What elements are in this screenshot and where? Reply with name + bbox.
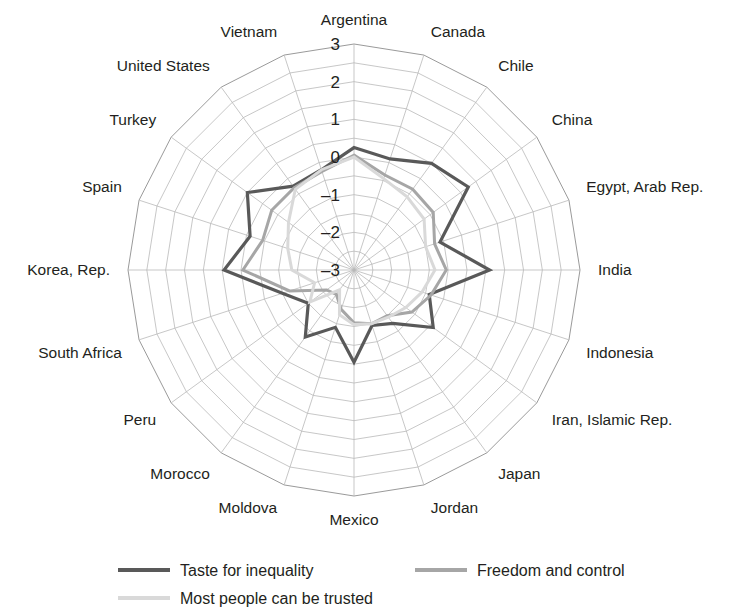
axis-label-china: China <box>552 111 593 128</box>
radial-tick-label: –2 <box>321 223 340 242</box>
axis-label-jordan: Jordan <box>431 499 478 516</box>
axis-label-mexico: Mexico <box>329 511 378 528</box>
radar-gridlines <box>128 44 580 496</box>
grid-spoke <box>354 270 537 403</box>
axis-label-argentina: Argentina <box>321 11 388 28</box>
radial-tick-label: –3 <box>321 261 340 280</box>
radial-tick-label: 1 <box>331 110 340 129</box>
axis-label-india: India <box>598 261 632 278</box>
legend-label: Most people can be trusted <box>180 590 373 607</box>
radial-tick-label: 2 <box>331 73 340 92</box>
chart-legend: Taste for inequalityFreedom and controlM… <box>118 562 625 607</box>
axis-label-japan: Japan <box>498 465 540 482</box>
grid-spoke <box>221 270 354 453</box>
legend-label: Freedom and control <box>477 562 625 579</box>
axis-label-morocco: Morocco <box>150 465 209 482</box>
radar-chart-svg: 3210–1–2–3 ArgentinaCanadaChileChinaEgyp… <box>0 0 737 614</box>
series-line-3 <box>288 157 435 325</box>
grid-spoke <box>354 270 487 453</box>
legend-label: Taste for inequality <box>180 562 313 579</box>
axis-label-canada: Canada <box>431 23 486 40</box>
axis-label-spain: Spain <box>82 178 122 195</box>
axis-label-chile: Chile <box>498 57 533 74</box>
axis-label-moldova: Moldova <box>219 499 278 516</box>
axis-label-iran-islamic-rep: Iran, Islamic Rep. <box>552 411 673 428</box>
axis-label-vietnam: Vietnam <box>221 23 278 40</box>
radial-axis-ticks: 3210–1–2–3 <box>321 35 340 280</box>
radial-tick-label: 3 <box>331 35 340 54</box>
axis-label-peru: Peru <box>123 411 156 428</box>
axis-label-egypt-arab-rep: Egypt, Arab Rep. <box>586 178 703 195</box>
series-line-1 <box>224 148 490 363</box>
category-axis-labels: ArgentinaCanadaChileChinaEgypt, Arab Rep… <box>27 11 703 528</box>
radial-tick-label: –1 <box>321 186 340 205</box>
axis-label-south-africa: South Africa <box>38 344 122 361</box>
grid-spoke <box>354 87 487 270</box>
radar-series-lines <box>224 148 490 363</box>
radial-tick-label: 0 <box>331 148 340 167</box>
axis-label-indonesia: Indonesia <box>586 344 654 361</box>
axis-label-turkey: Turkey <box>109 111 156 128</box>
axis-label-united-states: United States <box>117 57 210 74</box>
axis-label-korea-rep: Korea, Rep. <box>27 261 110 278</box>
radar-chart-figure: 3210–1–2–3 ArgentinaCanadaChileChinaEgyp… <box>0 0 737 614</box>
